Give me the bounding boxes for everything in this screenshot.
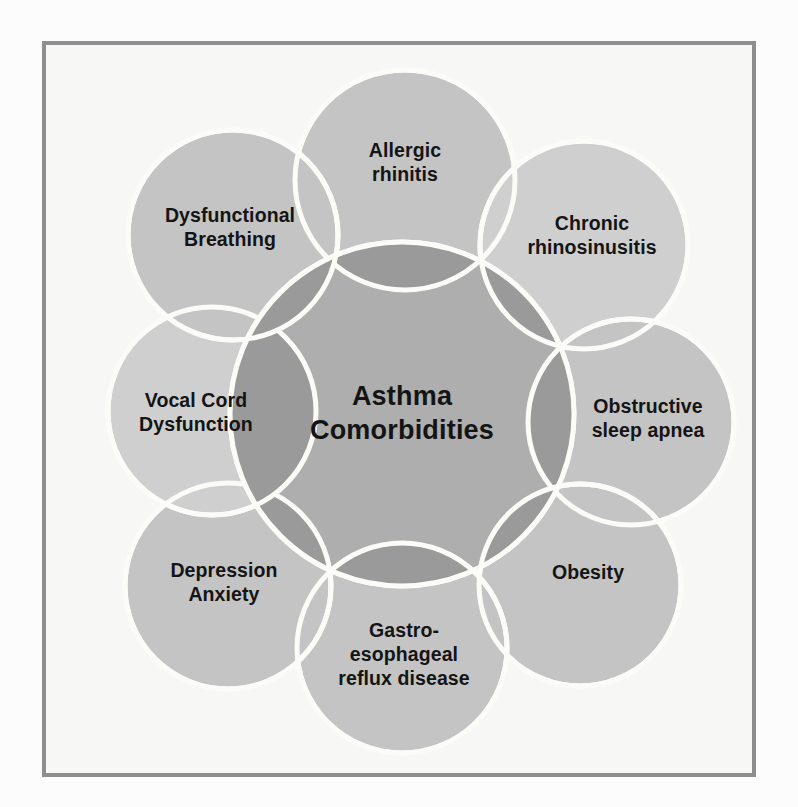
figure-root: Asthma Comorbidities Allergic rhinitis C… — [0, 0, 798, 807]
diagram-frame — [42, 41, 756, 777]
